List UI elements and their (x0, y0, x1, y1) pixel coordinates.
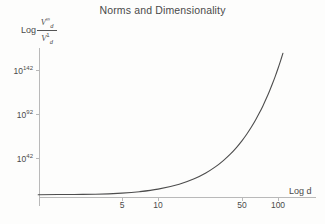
chart-figure: Norms and Dimensionality Log V∞d V1d 104… (0, 0, 325, 224)
plot-area: 1042109210142 51050100 (0, 0, 325, 224)
x-axis-label: Log d (289, 186, 312, 196)
curve-layer (0, 0, 325, 224)
data-series-curve (38, 53, 283, 195)
